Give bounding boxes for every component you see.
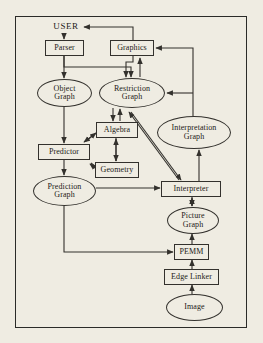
node-prediction-graph[interactable]: Prediction Graph (33, 176, 96, 206)
node-parser-label: Parser (54, 44, 75, 52)
node-geometry-label: Geometry (101, 166, 134, 174)
node-restriction-graph-label-2: Graph (122, 93, 143, 101)
node-interpretation-graph[interactable]: Interpretation Graph (157, 116, 231, 149)
node-pemm[interactable]: PEMM (174, 244, 209, 260)
edge-parser-restriction-graph (64, 56, 131, 77)
node-pemm-label: PEMM (180, 248, 204, 256)
node-edge-linker-label: Edge Linker (171, 273, 212, 281)
node-parser[interactable]: Parser (45, 40, 84, 56)
node-interpreter-label: Interpreter (174, 185, 209, 193)
edge-prediction-graph-pemm (64, 206, 173, 252)
node-edge-linker[interactable]: Edge Linker (164, 269, 219, 285)
node-predictor-label: Predictor (49, 148, 79, 156)
node-user: USER (50, 21, 82, 33)
node-graphics[interactable]: Graphics (110, 40, 154, 56)
node-algebra[interactable]: Algebra (96, 122, 138, 138)
node-user-label: USER (53, 22, 78, 31)
node-predictor[interactable]: Predictor (38, 144, 90, 160)
node-prediction-graph-label-2: Graph (54, 191, 75, 199)
node-interpreter[interactable]: Interpreter (161, 181, 221, 197)
edge-predictor-algebra (86, 133, 96, 141)
node-image[interactable]: Image (166, 294, 223, 321)
node-restriction-graph[interactable]: Restriction Graph (99, 78, 165, 108)
node-geometry[interactable]: Geometry (95, 162, 139, 178)
diagram-page: USER Parser Graphics Object Graph Restri… (0, 0, 263, 343)
node-algebra-label: Algebra (104, 126, 130, 134)
node-interpretation-graph-label-2: Graph (184, 133, 205, 141)
node-object-graph-label-2: Graph (54, 93, 75, 101)
node-picture-graph-label-2: Graph (183, 221, 204, 229)
node-picture-graph[interactable]: Picture Graph (167, 207, 219, 234)
node-object-graph[interactable]: Object Graph (37, 79, 92, 107)
edge-interpretation-graph-graphics (156, 48, 193, 116)
node-graphics-label: Graphics (117, 44, 147, 52)
edge-graphics-user (84, 27, 133, 40)
node-image-label: Image (184, 303, 205, 311)
